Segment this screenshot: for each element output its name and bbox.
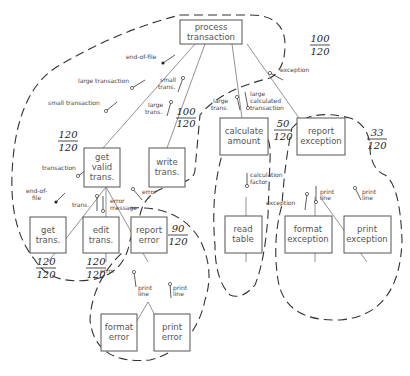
svg-text:120: 120 xyxy=(176,118,196,129)
module-get-trans[interactable]: get trans. xyxy=(30,217,66,253)
svg-text:line: line xyxy=(138,290,149,297)
fraction-get-valid-trans: 120 120 xyxy=(58,129,78,153)
svg-text:factor: factor xyxy=(250,178,268,185)
svg-text:120: 120 xyxy=(310,46,330,57)
couple-print-line-fe xyxy=(314,186,317,204)
svg-text:trans.: trans. xyxy=(155,167,180,177)
svg-text:transaction: transaction xyxy=(187,32,235,42)
couple-large-transaction xyxy=(130,80,145,90)
structure-chart: process transaction get valid trans. wri… xyxy=(0,0,410,376)
svg-text:exception: exception xyxy=(300,136,342,146)
svg-text:format: format xyxy=(105,322,134,332)
svg-text:transaction: transaction xyxy=(250,104,284,111)
svg-text:write: write xyxy=(156,157,177,167)
svg-text:amount: amount xyxy=(228,136,261,146)
couple-exception-left xyxy=(305,192,309,210)
module-report-error[interactable]: report error xyxy=(131,217,167,253)
svg-text:trans.: trans. xyxy=(90,172,115,182)
module-process-transaction[interactable]: process transaction xyxy=(180,20,242,44)
svg-text:error: error xyxy=(162,332,183,342)
svg-text:trans.: trans. xyxy=(145,108,162,115)
svg-text:line: line xyxy=(173,290,184,297)
svg-text:valid: valid xyxy=(92,162,112,172)
svg-text:120: 120 xyxy=(86,269,106,280)
svg-text:transaction: transaction xyxy=(42,164,76,171)
svg-text:50: 50 xyxy=(277,118,290,129)
svg-text:120: 120 xyxy=(36,256,56,267)
couple-large-calc-trans xyxy=(245,92,250,110)
svg-text:exception: exception xyxy=(287,234,329,244)
svg-text:print: print xyxy=(357,224,378,234)
svg-text:100: 100 xyxy=(310,33,330,44)
couple-small-transaction xyxy=(104,102,117,113)
couple-error-right xyxy=(131,187,142,200)
svg-text:error: error xyxy=(139,235,160,245)
svg-text:read: read xyxy=(233,224,252,234)
module-format-exception[interactable]: format exception xyxy=(285,216,332,253)
couple-print-line-perr xyxy=(168,282,171,298)
couple-error-message xyxy=(101,196,104,213)
svg-text:end-of-: end-of- xyxy=(26,187,47,194)
svg-text:edit: edit xyxy=(93,225,110,235)
svg-text:trans.: trans. xyxy=(89,235,114,245)
fraction-edit-trans: 120 120 xyxy=(86,256,106,280)
fraction-write-trans: 100 120 xyxy=(176,106,196,129)
svg-text:large transaction: large transaction xyxy=(78,77,129,85)
cohesion-groups xyxy=(12,15,402,361)
fraction-calculate-amount: 50 120 xyxy=(273,118,293,142)
module-print-exception[interactable]: print exception xyxy=(344,216,391,253)
couple-calculation-factor xyxy=(245,173,248,188)
svg-text:table: table xyxy=(232,234,254,244)
svg-text:get: get xyxy=(95,152,110,162)
svg-text:120: 120 xyxy=(86,256,106,267)
svg-text:message: message xyxy=(110,204,137,212)
svg-text:small transaction: small transaction xyxy=(48,99,100,106)
svg-text:calculate: calculate xyxy=(225,126,263,136)
module-edit-trans[interactable]: edit trans. xyxy=(83,217,119,253)
fraction-get-trans: 120 120 xyxy=(36,256,56,280)
module-format-error[interactable]: format error xyxy=(101,314,137,351)
svg-text:33: 33 xyxy=(371,127,384,138)
svg-text:end-of-file: end-of-file xyxy=(126,53,157,60)
svg-text:file: file xyxy=(32,194,41,201)
svg-text:line: line xyxy=(362,194,373,201)
fraction-report-error: 90 120 xyxy=(168,223,188,247)
svg-text:process: process xyxy=(195,22,228,32)
module-print-error[interactable]: print error xyxy=(154,314,190,351)
svg-text:100: 100 xyxy=(176,106,196,117)
svg-text:report: report xyxy=(308,126,335,136)
svg-text:calculation: calculation xyxy=(250,171,283,178)
svg-text:get: get xyxy=(41,225,56,235)
svg-text:120: 120 xyxy=(58,142,78,153)
couple-small-trans xyxy=(178,76,185,92)
svg-text:exception: exception xyxy=(280,66,310,74)
svg-text:error: error xyxy=(142,188,157,195)
module-read-table[interactable]: read table xyxy=(225,216,262,253)
couple-end-of-file-top xyxy=(161,55,175,65)
svg-text:trans.: trans. xyxy=(211,104,228,111)
svg-text:report: report xyxy=(136,225,163,235)
svg-text:error: error xyxy=(110,197,125,204)
svg-text:90: 90 xyxy=(172,223,185,234)
svg-text:trans.: trans. xyxy=(36,235,61,245)
couple-print-line-ferr xyxy=(132,270,136,287)
svg-text:exception: exception xyxy=(346,234,388,244)
svg-text:120: 120 xyxy=(168,236,188,247)
svg-text:120: 120 xyxy=(367,140,387,151)
svg-text:small: small xyxy=(160,76,176,83)
svg-text:trans.: trans. xyxy=(72,201,89,208)
svg-text:exception: exception xyxy=(266,199,296,207)
svg-text:error: error xyxy=(109,332,130,342)
module-report-exception[interactable]: report exception xyxy=(297,118,345,155)
svg-text:trans.: trans. xyxy=(158,83,175,90)
module-calculate-amount[interactable]: calculate amount xyxy=(220,118,268,155)
svg-text:format: format xyxy=(294,224,323,234)
module-write-trans[interactable]: write trans. xyxy=(149,148,185,187)
svg-text:calculated: calculated xyxy=(250,97,281,104)
couple-end-of-file-left xyxy=(54,193,65,204)
module-get-valid-trans[interactable]: get valid trans. xyxy=(84,148,120,187)
svg-text:120: 120 xyxy=(58,129,78,140)
svg-text:120: 120 xyxy=(273,131,293,142)
svg-text:120: 120 xyxy=(36,269,56,280)
couple-print-line-pe xyxy=(353,186,361,200)
